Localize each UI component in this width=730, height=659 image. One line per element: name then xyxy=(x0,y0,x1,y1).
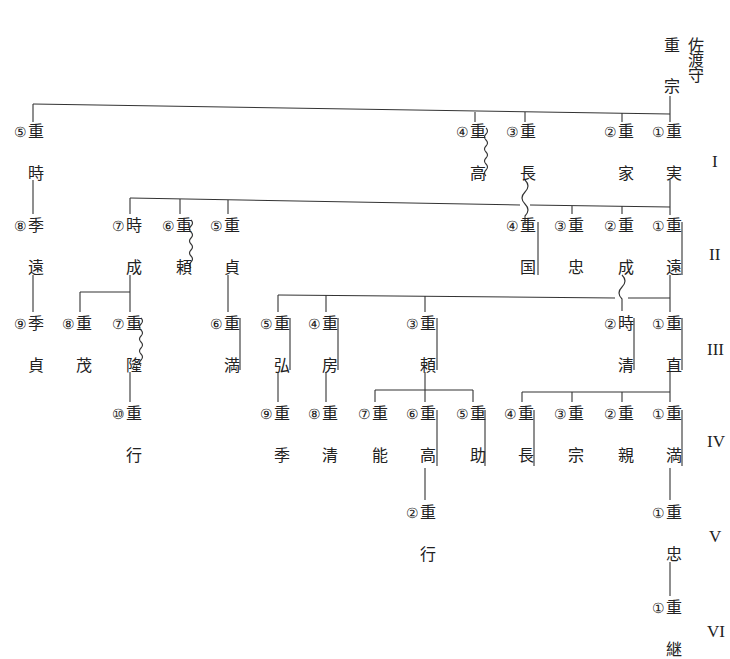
name-char: 重 xyxy=(420,503,436,522)
person-node: ④重長 xyxy=(504,406,534,464)
person-node: ⑤重時 xyxy=(14,124,44,182)
birth-order-badge: ⑦ xyxy=(358,406,371,422)
person-node: ④重高 xyxy=(456,124,486,182)
person-given-first: ③重 xyxy=(554,218,584,234)
person-given-second: 親 xyxy=(604,448,634,464)
birth-order-badge: ① xyxy=(652,218,665,234)
person-given-first: ④重 xyxy=(308,316,338,332)
name-char: 重 xyxy=(666,216,682,235)
name-char: 重 xyxy=(618,216,634,235)
person-given-second: 直 xyxy=(652,358,682,374)
person-given-second: 清 xyxy=(604,358,634,374)
name-char: 重 xyxy=(176,216,192,235)
person-node: ③重長 xyxy=(506,124,536,182)
person-given-second: 忠 xyxy=(554,260,584,276)
birth-order-badge: ⑧ xyxy=(62,316,75,332)
person-given-second: 長 xyxy=(504,448,534,464)
person-given-first: ⑥重 xyxy=(210,316,240,332)
birth-order-badge: ⑤ xyxy=(260,316,273,332)
person-given-second: 継 xyxy=(652,642,682,658)
birth-order-badge: ① xyxy=(652,316,665,332)
generation-label: V xyxy=(709,527,721,547)
person-node: ⑥重頼 xyxy=(162,218,192,276)
person-node: ①重満 xyxy=(652,406,682,464)
birth-order-badge: ④ xyxy=(504,406,517,422)
birth-order-badge: ⑦ xyxy=(112,218,125,234)
birth-order-badge: ⑤ xyxy=(14,124,27,140)
person-given-second: 満 xyxy=(210,358,240,374)
person-given-second: 季 xyxy=(260,448,290,464)
person-given-first: ①重 xyxy=(652,600,682,616)
person-given-first: ①重 xyxy=(652,218,682,234)
person-given-first: ⑧重 xyxy=(308,406,338,422)
name-char: 重 xyxy=(666,404,682,423)
person-given-first: ⑦時 xyxy=(112,218,142,234)
person-node: ⑦時成 xyxy=(112,218,142,276)
person-node: ⑤重弘 xyxy=(260,316,290,374)
birth-order-badge: ⑤ xyxy=(456,406,469,422)
root-name-char: 宗 xyxy=(664,79,680,94)
person-given-second: 茂 xyxy=(62,358,92,374)
person-given-first: ⑧重 xyxy=(62,316,92,332)
name-char: 重 xyxy=(126,314,142,333)
person-given-first: ②重 xyxy=(604,218,634,234)
birth-order-badge: ⑨ xyxy=(260,406,273,422)
person-given-second: 遠 xyxy=(652,260,682,276)
birth-order-badge: ② xyxy=(604,124,617,140)
person-given-first: ⑨重 xyxy=(260,406,290,422)
name-char: 重 xyxy=(520,216,536,235)
person-given-second: 貞 xyxy=(210,260,240,276)
person-given-first: ①重 xyxy=(652,124,682,140)
person-node: ②重成 xyxy=(604,218,634,276)
person-given-first: ⑤重 xyxy=(14,124,44,140)
person-given-first: ①重 xyxy=(652,505,682,521)
person-given-second: 貞 xyxy=(14,358,44,374)
person-given-second: 時 xyxy=(14,166,44,182)
root-name: 重 宗 xyxy=(664,38,680,94)
birth-order-badge: ③ xyxy=(554,406,567,422)
person-node: ⑤重助 xyxy=(456,406,486,464)
name-char: 重 xyxy=(666,503,682,522)
person-given-second: 長 xyxy=(506,166,536,182)
generation-label: IV xyxy=(707,432,725,452)
person-node: ⑥重満 xyxy=(210,316,240,374)
person-node: ①重直 xyxy=(652,316,682,374)
birth-order-badge: ② xyxy=(604,218,617,234)
name-char: 重 xyxy=(372,404,388,423)
name-char: 重 xyxy=(420,404,436,423)
person-given-first: ①重 xyxy=(652,406,682,422)
name-char: 重 xyxy=(274,404,290,423)
birth-order-badge: ④ xyxy=(506,218,519,234)
person-given-second: 房 xyxy=(308,358,338,374)
person-given-first: ⑧季 xyxy=(14,218,44,234)
person-given-first: ⑤重 xyxy=(260,316,290,332)
name-char: 重 xyxy=(420,314,436,333)
person-node: ②重親 xyxy=(604,406,634,464)
birth-order-badge: ⑧ xyxy=(14,218,27,234)
generation-label: II xyxy=(709,245,720,265)
person-given-first: ①重 xyxy=(652,316,682,332)
person-given-first: ③重 xyxy=(506,124,536,140)
person-given-second: 弘 xyxy=(260,358,290,374)
person-node: ⑧重茂 xyxy=(62,316,92,374)
person-given-first: ②重 xyxy=(406,505,436,521)
root-title: 佐 渡 守 xyxy=(688,38,704,83)
person-node: ②時清 xyxy=(604,316,634,374)
name-char: 重 xyxy=(618,404,634,423)
person-given-first: ③重 xyxy=(406,316,436,332)
name-char: 重 xyxy=(224,314,240,333)
person-given-first: ⑤重 xyxy=(210,218,240,234)
name-char: 重 xyxy=(322,314,338,333)
person-node: ③重宗 xyxy=(554,406,584,464)
birth-order-badge: ④ xyxy=(456,124,469,140)
person-given-first: ⑦重 xyxy=(358,406,388,422)
person-given-first: ⑦重 xyxy=(112,316,142,332)
person-given-second: 成 xyxy=(604,260,634,276)
name-char: 重 xyxy=(28,122,44,141)
person-node: ⑨重季 xyxy=(260,406,290,464)
person-given-second: 宗 xyxy=(554,448,584,464)
person-node: ⑥重高 xyxy=(406,406,436,464)
person-node: ④重房 xyxy=(308,316,338,374)
name-char: 重 xyxy=(274,314,290,333)
